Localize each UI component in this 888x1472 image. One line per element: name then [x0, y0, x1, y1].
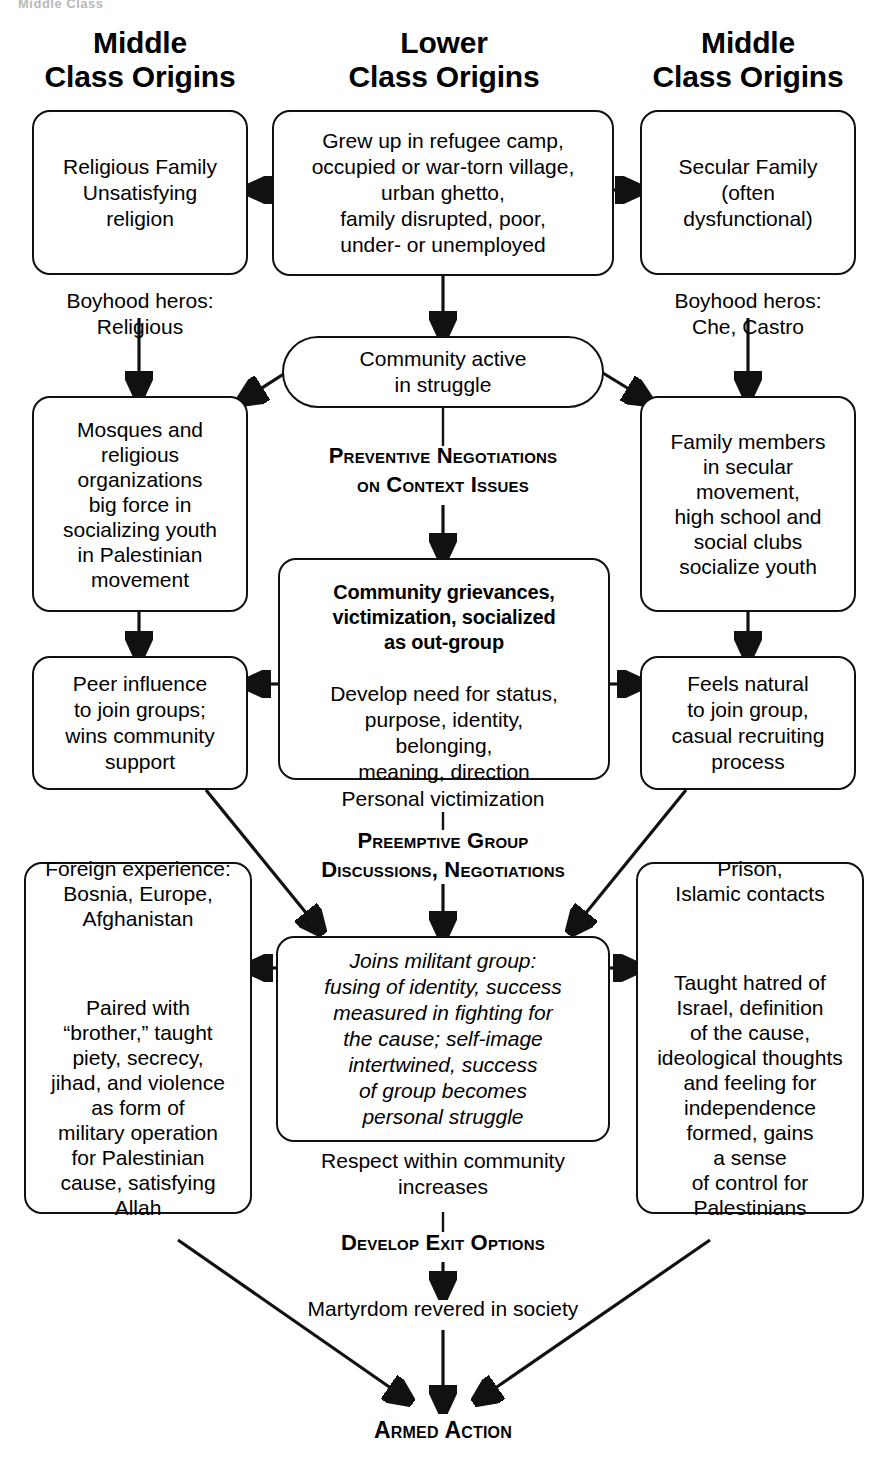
node-lower-class-origin-text: Grew up in refugee camp, occupied or war… [282, 128, 604, 258]
node-family-members-text: Family members in secular movement, high… [650, 429, 846, 579]
label-preventive-negotiations: Preventive Negotiations on Context Issue… [273, 441, 613, 499]
node-lower-class-origin: Grew up in refugee camp, occupied or war… [272, 110, 614, 276]
label-armed-action: Armed Action [273, 1416, 613, 1445]
node-religious-family: Religious Family Unsatisfying religion [32, 110, 248, 275]
node-joins-militant-group-text: Joins militant group: fusing of identity… [286, 948, 600, 1130]
node-peer-influence-text: Peer influence to join groups; wins comm… [42, 671, 238, 775]
node-mosques-religious-orgs: Mosques and religious organizations big … [32, 396, 248, 612]
node-joins-militant-group: Joins militant group: fusing of identity… [276, 936, 610, 1142]
node-prison-head: Prison, Islamic contacts [646, 856, 854, 906]
node-family-members-secular: Family members in secular movement, high… [640, 396, 856, 612]
node-religious-family-text: Religious Family Unsatisfying religion [42, 154, 238, 232]
node-foreign-experience: Foreign experience: Bosnia, Europe, Afgh… [24, 862, 252, 1214]
column-heading-left: Middle Class Origins [12, 26, 268, 94]
node-community-active-text: Community active in struggle [292, 346, 594, 398]
node-secular-family-text: Secular Family (often dysfunctional) [650, 154, 846, 232]
node-feels-natural-text: Feels natural to join group, casual recr… [650, 671, 846, 775]
node-secular-family: Secular Family (often dysfunctional) [640, 110, 856, 275]
node-foreign-experience-body: Paired with “brother,” taught piety, sec… [34, 995, 242, 1220]
label-develop-exit-options: Develop Exit Options [273, 1228, 613, 1257]
label-boyhood-heros-right: Boyhood heros: Che, Castro [626, 288, 870, 340]
node-feels-natural: Feels natural to join group, casual recr… [640, 656, 856, 790]
node-grievances-body-text: Develop need for status, purpose, identi… [330, 682, 558, 783]
label-personal-victimization: Personal victimization [273, 786, 613, 812]
flowchart-canvas: Middle Class [0, 0, 888, 1472]
node-foreign-experience-head: Foreign experience: Bosnia, Europe, Afgh… [34, 856, 242, 931]
node-grievances-bold-text: Community grievances, victimization, soc… [288, 580, 600, 655]
column-heading-right: Middle Class Origins [620, 26, 876, 94]
clipped-header-fragment: Middle Class [18, 0, 103, 11]
label-boyhood-heros-left: Boyhood heros: Religious [18, 288, 262, 340]
node-prison-body: Taught hatred of Israel, definition of t… [646, 970, 854, 1220]
column-heading-center: Lower Class Origins [316, 26, 572, 94]
node-prison-islamic-contacts: Prison, Islamic contacts Taught hatred o… [636, 862, 864, 1214]
label-preemptive-group-discussions: Preemptive Group Discussions, Negotiatio… [253, 826, 633, 884]
node-community-grievances: Community grievances, victimization, soc… [278, 558, 610, 780]
node-peer-influence: Peer influence to join groups; wins comm… [32, 656, 248, 790]
label-respect-increases: Respect within community increases [253, 1148, 633, 1200]
node-mosques-text: Mosques and religious organizations big … [42, 417, 238, 592]
node-community-active: Community active in struggle [282, 336, 604, 408]
label-martyrdom-revered: Martyrdom revered in society [253, 1296, 633, 1322]
